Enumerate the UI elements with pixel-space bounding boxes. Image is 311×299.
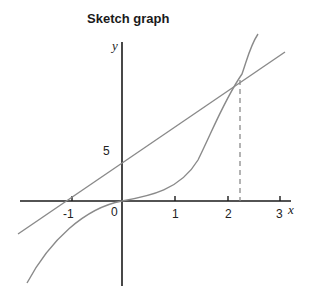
x-axis-label: x — [287, 202, 294, 217]
tick-label-1: 1 — [172, 207, 179, 221]
straight-line — [18, 52, 285, 234]
tick-label-0: 0 — [111, 205, 118, 219]
sketch-graph: -1 0 1 2 3 5 x y — [0, 0, 311, 299]
tick-label-2: 2 — [225, 207, 232, 221]
y-axis-label: y — [110, 38, 118, 53]
tick-label-neg1: -1 — [63, 207, 74, 221]
tick-label-y5: 5 — [103, 144, 110, 158]
tick-label-3: 3 — [276, 207, 283, 221]
curve — [27, 34, 258, 283]
